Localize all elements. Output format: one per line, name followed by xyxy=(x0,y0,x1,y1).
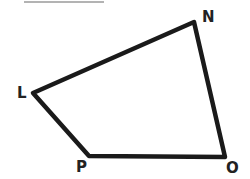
quadrilateral-diagram: N O P L xyxy=(0,0,250,179)
vertex-label-p: P xyxy=(76,158,87,176)
vertex-label-n: N xyxy=(202,8,215,26)
vertex-label-l: L xyxy=(17,84,27,102)
quadrilateral-lnop xyxy=(33,22,225,157)
vertex-label-o: O xyxy=(226,159,239,177)
